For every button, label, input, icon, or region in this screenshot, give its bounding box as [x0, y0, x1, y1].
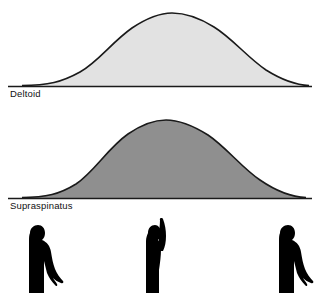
panel-supraspinatus: Supraspinatus — [0, 104, 319, 218]
emg-activity-figure: Deltoid Supraspinatus — [0, 0, 319, 293]
deltoid-curve-chart — [0, 0, 319, 104]
supraspinatus-curve-area — [22, 120, 306, 198]
arm-position-silhouettes — [0, 218, 319, 293]
figure-arm-raised-center-icon — [138, 218, 178, 293]
supraspinatus-label: Supraspinatus — [10, 200, 73, 212]
panel-deltoid: Deltoid — [0, 0, 319, 104]
figure-arm-down-right-icon — [268, 225, 314, 293]
deltoid-curve-area — [22, 13, 309, 86]
figure-arm-down-left-icon — [18, 225, 64, 293]
deltoid-label: Deltoid — [10, 88, 41, 100]
